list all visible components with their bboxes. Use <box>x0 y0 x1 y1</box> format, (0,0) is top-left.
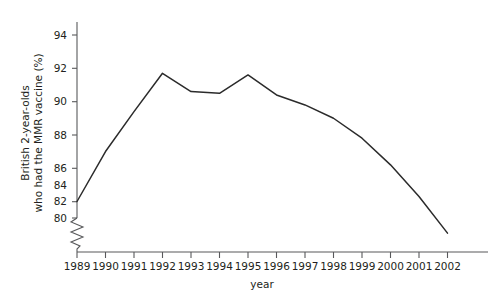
x-tick-label: 1993 <box>178 260 205 272</box>
x-tick-label: 1989 <box>64 260 91 272</box>
y-axis-title-line1: British 2-year-olds <box>19 85 31 180</box>
y-tick-label: 92 <box>54 62 67 74</box>
x-tick-label: 1998 <box>320 260 347 272</box>
x-tick-label: 1997 <box>292 260 319 272</box>
y-tick-label: 88 <box>54 129 67 141</box>
y-tick-label: 84 <box>54 179 68 191</box>
y-axis-title-line2: who had the MMR vaccine (%) <box>32 53 44 212</box>
x-tick-label: 1999 <box>349 260 376 272</box>
x-tick-label: 2000 <box>377 260 404 272</box>
x-tick-label: 1995 <box>235 260 262 272</box>
y-tick-label: 86 <box>54 162 68 174</box>
x-tick-label: 2001 <box>406 260 433 272</box>
line-chart: 94 92 90 88 86 84 82 80 <box>0 0 493 296</box>
y-tick-label: 94 <box>54 29 68 41</box>
chart-figure: 94 92 90 88 86 84 82 80 <box>0 0 493 296</box>
y-tick-label: 82 <box>54 195 67 207</box>
y-tick-label: 90 <box>54 95 67 107</box>
x-tick-label: 1990 <box>92 260 119 272</box>
x-tick-label: 1992 <box>149 260 176 272</box>
x-tick-label: 1996 <box>263 260 290 272</box>
x-tick-label: 2002 <box>434 260 461 272</box>
x-tick-label: 1991 <box>121 260 148 272</box>
x-tick-label: 1994 <box>206 260 233 272</box>
x-axis-tick-labels: 1989 1990 1991 1992 1993 1994 1995 1996 … <box>64 260 461 272</box>
y-tick-label: 80 <box>54 212 67 224</box>
x-axis-title: year <box>250 278 274 290</box>
